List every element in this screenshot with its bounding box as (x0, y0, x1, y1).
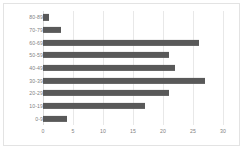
bar-row: 10-19 (4, 100, 241, 113)
category-label: 70-79 (29, 27, 43, 33)
plot-area: 80-8970-7960-6950-5940-4930-3920-2910-19… (4, 4, 241, 147)
bar (43, 65, 175, 71)
x-tick-label: 20 (151, 128, 175, 134)
x-tick-label: 0 (31, 128, 55, 134)
category-label: 10-19 (29, 103, 43, 109)
bar (43, 115, 67, 121)
bars-group: 80-8970-7960-6950-5940-4930-3920-2910-19… (4, 11, 241, 125)
category-label: 30-39 (29, 78, 43, 84)
bar-row: 60-69 (4, 36, 241, 49)
category-label: 80-89 (29, 14, 43, 20)
chart-container: 80-8970-7960-6950-5940-4930-3920-2910-19… (3, 3, 240, 146)
x-tick-label: 15 (121, 128, 145, 134)
x-tick-label: 25 (181, 128, 205, 134)
bar-row: 0-9 (4, 112, 241, 125)
category-label: 60-69 (29, 40, 43, 46)
x-tick-label: 10 (91, 128, 115, 134)
bar (43, 103, 145, 109)
bar-row: 50-59 (4, 49, 241, 62)
bar-row: 20-29 (4, 87, 241, 100)
category-label: 20-29 (29, 90, 43, 96)
bar (43, 14, 49, 20)
category-label: 50-59 (29, 52, 43, 58)
bar-row: 70-79 (4, 24, 241, 37)
category-label: 0-9 (35, 116, 43, 122)
bar (43, 90, 169, 96)
category-label: 40-49 (29, 65, 43, 71)
bar (43, 40, 199, 46)
bar-row: 40-49 (4, 62, 241, 75)
bar (43, 78, 205, 84)
bar-row: 80-89 (4, 11, 241, 24)
x-tick-label: 30 (211, 128, 235, 134)
bar (43, 27, 61, 33)
bar-row: 30-39 (4, 74, 241, 87)
bar (43, 52, 169, 58)
x-tick-label: 5 (61, 128, 85, 134)
